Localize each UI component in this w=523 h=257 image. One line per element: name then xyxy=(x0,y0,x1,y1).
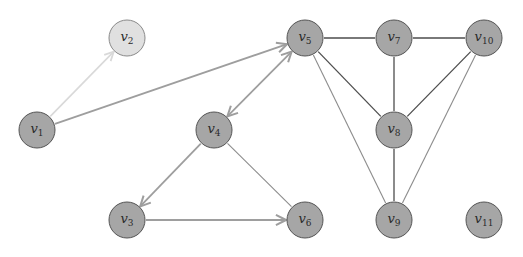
node-label-subscript: 9 xyxy=(395,218,401,228)
node-v5[interactable]: v5 xyxy=(287,20,323,56)
node-label-subscript: 8 xyxy=(395,128,401,138)
edge-v4-v6 xyxy=(228,143,292,206)
node-v11[interactable]: v11 xyxy=(466,202,502,238)
node-label-subscript: 2 xyxy=(128,36,134,46)
node-label-subscript: 1 xyxy=(38,128,44,138)
graph-diagram: v1v2v3v4v5v6v7v8v9v10v11 xyxy=(0,0,523,257)
node-label-subscript: 10 xyxy=(482,36,494,46)
edge-v1-v5 xyxy=(55,44,287,124)
edge-v10-v9 xyxy=(402,55,475,203)
edge-v4-v3 xyxy=(140,144,201,207)
node-v2[interactable]: v2 xyxy=(109,20,145,56)
node-v3[interactable]: v3 xyxy=(109,202,145,238)
node-v9[interactable]: v9 xyxy=(376,202,412,238)
node-label-subscript: 4 xyxy=(215,128,221,138)
node-label-subscript: 3 xyxy=(128,218,134,228)
edge-v5-v9 xyxy=(313,55,385,203)
node-label-subscript: 5 xyxy=(306,36,312,46)
node-v8[interactable]: v8 xyxy=(376,112,412,148)
node-label-subscript: 7 xyxy=(395,36,401,46)
node-label-subscript: 6 xyxy=(306,218,312,228)
node-v7[interactable]: v7 xyxy=(376,20,412,56)
node-v1[interactable]: v1 xyxy=(19,112,55,148)
node-v6[interactable]: v6 xyxy=(287,202,323,238)
node-v4[interactable]: v4 xyxy=(196,112,232,148)
node-label-subscript: 11 xyxy=(482,218,493,228)
node-v10[interactable]: v10 xyxy=(466,20,502,56)
